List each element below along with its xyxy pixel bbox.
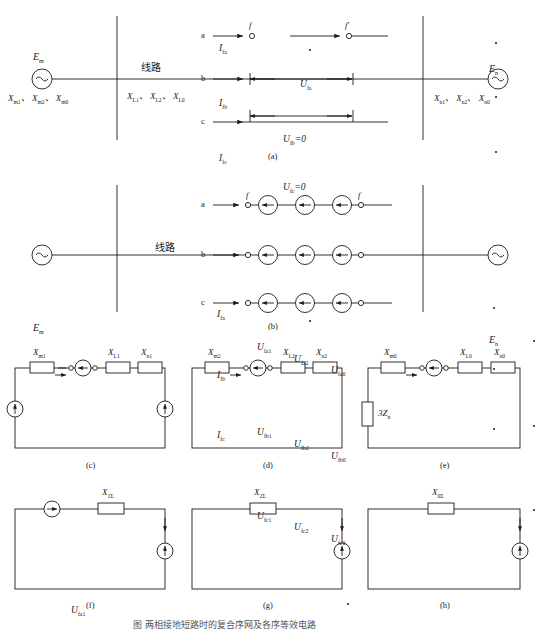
panel-label-e: (e) — [440, 461, 449, 470]
panel-label-a: (a) — [268, 152, 277, 161]
panel-b-source-b2: Ufb2 — [294, 440, 553, 452]
panel-b-phase-c-label: c — [201, 298, 205, 307]
panel-b-source-a0: Ufa0 — [331, 366, 553, 378]
panel-c-voltage: Ufa1 — [71, 606, 553, 618]
panel-b-phase-b-label: b — [201, 250, 205, 259]
panel-c-x-right: Xn1 — [141, 348, 152, 359]
panel-a-line-reactance: XL1、 XL2、 XL0 — [127, 92, 185, 103]
panel-d-x-line: XL2 — [283, 348, 295, 359]
figure-caption: 图 两相接地短路时的复合序网及各序等效电路 — [133, 621, 316, 629]
panel-c-x-line: XL1 — [108, 348, 120, 359]
panel-e-neutral-impedance: 3Zn — [378, 409, 390, 420]
panel-f-reactance: X1Σ — [102, 488, 114, 499]
panel-label-h: (h) — [440, 601, 450, 610]
panel-a-phase-c-label: c — [201, 117, 205, 126]
panel-b-source-b1: Ufb1 — [257, 428, 553, 440]
panel-h-reactance: X0Σ — [432, 488, 444, 499]
panel-a-node-f: f — [249, 21, 251, 30]
panel-e-x-line: XL0 — [460, 348, 472, 359]
panel-b-line-label: 线路 — [155, 243, 175, 253]
panel-d-x-right: Xn2 — [316, 348, 327, 359]
panel-c-x-left: Xm1 — [33, 348, 46, 359]
panel-b-current-a: Ifa — [217, 310, 553, 322]
panel-a-voltage-b-eq: Ufb=0 — [283, 135, 553, 147]
panel-a-line-label: 线路 — [141, 63, 161, 73]
panel-e-x-right: Xn0 — [494, 348, 505, 359]
panel-a-current-a: Ifa — [219, 44, 553, 56]
panel-g-reactance: X2Σ — [254, 488, 266, 499]
figure-root: Em En Xm1、 Xm2、 Xm0 Xn1、 Xn2、 Xn0 线路 XL1… — [0, 0, 553, 629]
panel-b-phase-a-label: a — [201, 200, 205, 209]
panel-b-source-a1: Ufa1 — [257, 343, 553, 355]
panel-b-source-c0: Ufc0 — [331, 535, 553, 547]
panel-label-d: (d) — [263, 461, 273, 470]
panel-label-g: (g) — [263, 601, 273, 610]
panel-b-node-f: f — [246, 191, 248, 200]
panel-a-current-b: Ifb — [219, 99, 553, 111]
panel-e-x-left: Xm0 — [384, 348, 397, 359]
panel-label-b: (b) — [268, 322, 278, 331]
panel-a-phase-b-label: b — [201, 74, 205, 83]
panel-a-phase-a-label: a — [201, 31, 205, 40]
panel-a-emf-right: En — [489, 64, 553, 76]
panel-label-f: (f) — [86, 601, 95, 610]
panel-a-voltage-a: Ufa — [300, 80, 553, 92]
panel-a-node-f-prime: f' — [345, 21, 349, 30]
panel-b-node-f-prime: f — [358, 191, 360, 200]
panel-label-c: (c) — [86, 461, 95, 470]
panel-d-x-left: Xm2 — [208, 348, 221, 359]
panel-b-source-c1: Ufc1 — [257, 512, 553, 524]
panel-b-emf-left: Em — [33, 323, 553, 335]
panel-a-reactance-left: Xm1、 Xm2、 Xm0 — [8, 94, 68, 105]
panel-a-voltage-c-eq: Ufc=0 — [283, 183, 553, 195]
